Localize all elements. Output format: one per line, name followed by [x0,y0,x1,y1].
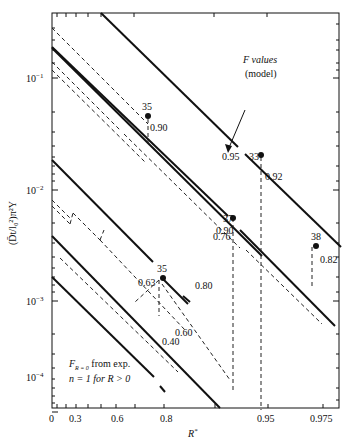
point-label-id: 33 [249,151,259,162]
svg-text:0: 0 [49,413,54,424]
point-label-id: 35 [157,263,167,274]
annotation-title: F values [242,54,277,65]
label-080: 0.80 [195,280,213,291]
svg-text:0.3: 0.3 [69,413,82,424]
annotation-subtitle: (model) [245,68,277,80]
svg-text:0.8: 0.8 [160,413,173,424]
y-ticks-left [52,28,58,412]
annotation-arrow [228,110,245,150]
x-axis-title: R* [187,427,198,439]
svg-text:0.975: 0.975 [310,413,333,424]
svg-text:10−4: 10−4 [26,371,44,383]
svg-text:0.95: 0.95 [257,413,275,424]
point-label-value: 0.92 [265,171,283,182]
y-tick-labels: 10−1 10−2 10−3 10−4 [26,72,44,383]
point-label-id: 38 [311,231,321,242]
chart: 0.95 0.90 0.80 0.60 0.40 35 0.90 33 0.92… [0,0,354,446]
plot-frame [52,13,339,408]
svg-text:10−3: 10−3 [26,295,44,307]
svg-text:10−2: 10−2 [26,184,44,196]
data-points [145,113,319,281]
point-label-id: 35 [142,101,152,112]
y-ticks-right [333,24,339,400]
label-095: 0.95 [222,151,240,162]
x-tick-labels: 0 0.3 0.6 0.8 0.95 0.975 [49,413,333,424]
point-label-value: 0.63 [138,277,156,288]
point-label-id: 37 [223,213,233,224]
note-line-1: FR = 0 from exp. [68,358,130,371]
point-label-value: 0.82 [320,254,338,265]
svg-text:10−1: 10−1 [26,72,44,84]
model-lines [52,13,341,408]
y-axis-title: (D̄t/l₀²)π²Y [7,201,19,245]
note-line-2: n = 1 for R > 0 [69,373,130,384]
point-label-value: 0.76 [213,231,231,242]
label-040: 0.40 [162,336,180,347]
point-label-value: 0.90 [150,122,168,133]
svg-text:0.6: 0.6 [111,413,124,424]
